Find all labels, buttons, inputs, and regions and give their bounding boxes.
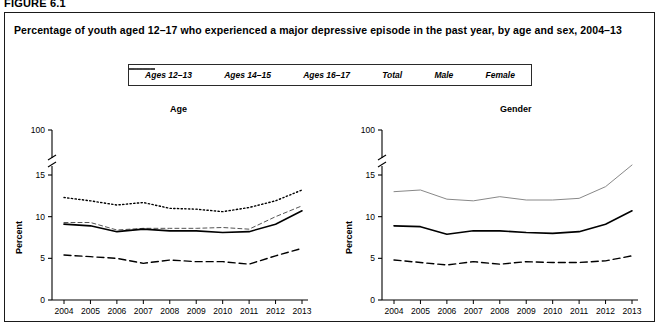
y-tick-label: 10 — [366, 212, 376, 222]
x-tick-label: 2010 — [213, 306, 232, 316]
chart-panel-gender: 051015100Percent200420052006200720082009… — [344, 125, 642, 316]
series-line-total — [394, 211, 632, 234]
y-axis-title: Percent — [344, 221, 354, 254]
x-tick-label: 2007 — [134, 306, 153, 316]
y-tick-label: 5 — [370, 253, 375, 263]
x-tick-label: 2013 — [623, 306, 642, 316]
x-tick-label: 2006 — [437, 306, 456, 316]
series-line-ages-16-17 — [64, 190, 302, 212]
y-tick-label: 10 — [36, 212, 46, 222]
series-line-ages-12-13 — [64, 248, 302, 264]
y-axis-title: Percent — [14, 221, 24, 254]
y-tick-label: 15 — [366, 170, 376, 180]
y-tick-label: 100 — [361, 125, 375, 135]
x-tick-label: 2006 — [107, 306, 126, 316]
x-tick-label: 2008 — [160, 306, 179, 316]
chart-plot-layer: 051015100Percent200420052006200720082009… — [0, 0, 661, 324]
x-tick-label: 2007 — [464, 306, 483, 316]
x-tick-label: 2008 — [490, 306, 509, 316]
y-tick-label: 15 — [36, 170, 46, 180]
x-tick-label: 2012 — [266, 306, 285, 316]
x-tick-label: 2011 — [240, 306, 259, 316]
y-tick-label: 0 — [370, 295, 375, 305]
y-tick-label: 5 — [40, 253, 45, 263]
x-tick-label: 2005 — [81, 306, 100, 316]
x-tick-label: 2010 — [543, 306, 562, 316]
x-tick-label: 2012 — [596, 306, 615, 316]
chart-panel-age: 051015100Percent200420052006200720082009… — [14, 125, 312, 316]
y-tick-label: 100 — [31, 125, 45, 135]
x-tick-label: 2005 — [411, 306, 430, 316]
x-tick-label: 2009 — [517, 306, 536, 316]
x-tick-label: 2004 — [385, 306, 404, 316]
y-tick-label: 0 — [40, 295, 45, 305]
series-line-male — [394, 256, 632, 265]
series-line-female — [394, 165, 632, 201]
x-tick-label: 2009 — [187, 306, 206, 316]
x-tick-label: 2011 — [570, 306, 589, 316]
series-line-total — [64, 211, 302, 233]
x-tick-label: 2013 — [293, 306, 312, 316]
x-tick-label: 2004 — [55, 306, 74, 316]
